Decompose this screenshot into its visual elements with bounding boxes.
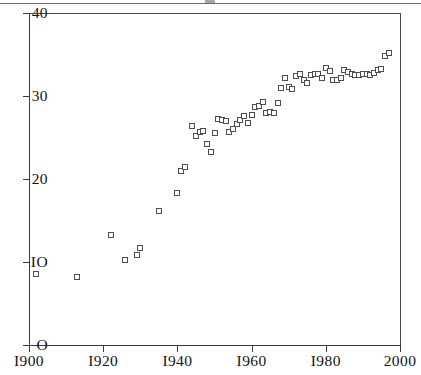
x-tick-mark [400, 345, 401, 352]
data-point-marker [289, 86, 295, 92]
x-tick-label: 2000 [370, 353, 421, 369]
data-point-marker [212, 130, 218, 136]
data-point-marker [275, 100, 281, 106]
data-point-marker [134, 252, 140, 258]
y-tick-label: O [18, 337, 48, 353]
data-point-marker [156, 208, 162, 214]
x-tick-label: I980 [296, 353, 356, 369]
data-point-marker [208, 149, 214, 155]
x-tick-label: I920 [73, 353, 133, 369]
data-point-marker [223, 118, 229, 124]
page-rule-divider [0, 3, 421, 4]
data-point-marker [245, 120, 251, 126]
x-tick-mark [29, 345, 30, 352]
data-point-marker [200, 128, 206, 134]
x-tick-label: I940 [147, 353, 207, 369]
scatter-chart-figure: 403020IOO I900I920I940I960I9802000 [0, 0, 421, 375]
data-point-marker [108, 232, 114, 238]
y-tick-label: 20 [18, 171, 48, 187]
data-point-marker [386, 50, 392, 56]
data-point-marker [260, 99, 266, 105]
data-point-marker [33, 271, 39, 277]
data-point-marker [327, 68, 333, 74]
data-point-marker [378, 66, 384, 72]
data-point-marker [204, 141, 210, 147]
x-tick-label: I960 [222, 353, 282, 369]
data-point-marker [174, 190, 180, 196]
data-point-marker [189, 123, 195, 129]
data-point-marker [338, 75, 344, 81]
y-tick-label: IO [18, 254, 48, 270]
y-tick-label: 40 [18, 5, 48, 21]
data-point-marker [297, 71, 303, 77]
data-point-marker [319, 75, 325, 81]
x-axis-line [29, 345, 400, 346]
x-tick-label: I900 [0, 353, 59, 369]
plot-frame-top [29, 13, 400, 14]
plot-frame-right [400, 13, 401, 345]
data-point-marker [241, 113, 247, 119]
y-tick-label: 30 [18, 88, 48, 104]
x-tick-mark [252, 345, 253, 352]
x-tick-mark [326, 345, 327, 352]
data-point-marker [278, 85, 284, 91]
data-point-marker [271, 110, 277, 116]
data-point-marker [137, 245, 143, 251]
data-point-marker [249, 112, 255, 118]
page-rule-mark [205, 0, 215, 3]
data-point-marker [282, 75, 288, 81]
x-tick-mark [177, 345, 178, 352]
x-tick-mark [103, 345, 104, 352]
data-point-marker [304, 80, 310, 86]
data-point-marker [74, 274, 80, 280]
data-point-marker [122, 257, 128, 263]
data-point-marker [182, 164, 188, 170]
